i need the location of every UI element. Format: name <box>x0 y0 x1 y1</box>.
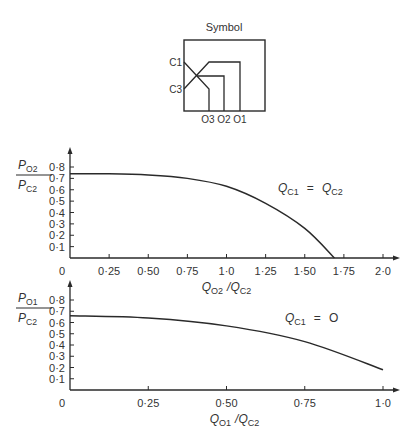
x-axis-label: QO1/QC2 <box>210 412 260 428</box>
curve-annotation: QC1=QC2 <box>278 181 343 197</box>
x-tick-label: 0·25 <box>98 265 120 277</box>
x-tick-label: 0·50 <box>215 397 237 409</box>
svg-text:PC2: PC2 <box>18 311 37 327</box>
x-tick-label: 2·0 <box>375 265 391 277</box>
y-tick-label: 0·8 <box>49 161 65 173</box>
y-tick-label: 0·4 <box>49 339 65 351</box>
x-axis-label: QO2/QC2 <box>202 280 252 296</box>
y-tick-label: 0·8 <box>49 294 65 306</box>
x-tick-label: 1·25 <box>255 265 277 277</box>
symbol-title: Symbol <box>206 21 243 33</box>
chart-o2-pressure-recovery: 0·10·20·30·40·50·60·70·800·250·500·751·0… <box>16 147 400 296</box>
svg-text:PC2: PC2 <box>18 178 37 194</box>
y-tick-label: 0·1 <box>49 373 65 385</box>
x-tick-label: 0·75 <box>176 265 198 277</box>
x-tick-label: 1·0 <box>375 397 391 409</box>
input-c3-label: C3 <box>169 84 182 95</box>
fluidic-symbol: Symbol C1 C3 O3 O2 O1 <box>169 21 265 125</box>
c1-channel <box>184 62 209 111</box>
curve-annotation: QC1=O <box>285 311 338 327</box>
x-axis-arrow-icon <box>393 388 400 393</box>
chart-o1-pressure-recovery: 0·10·20·30·40·50·60·70·800·250·500·751·0… <box>16 280 400 428</box>
output-o3-label: O3 <box>201 114 215 125</box>
x-tick-label: 1·50 <box>294 265 316 277</box>
output-o1-label: O1 <box>233 114 247 125</box>
c3-channel <box>184 62 240 111</box>
x-tick-label: 0·25 <box>137 397 159 409</box>
svg-text:PO2: PO2 <box>18 158 38 174</box>
y-tick-label: 0·4 <box>49 207 65 219</box>
x-tick-label: 0·50 <box>137 265 159 277</box>
y-tick-label: 0·5 <box>49 328 65 340</box>
output-o2-label: O2 <box>217 114 231 125</box>
y-tick-label: 0·3 <box>49 218 65 230</box>
x-axis-arrow-icon <box>393 256 400 261</box>
y-tick-label: 0·2 <box>49 229 65 241</box>
svg-text:PO1: PO1 <box>18 291 38 307</box>
x-tick-label: 0 <box>59 265 65 277</box>
y-tick-label: 0·7 <box>49 305 65 317</box>
y-tick-label: 0·6 <box>49 317 65 329</box>
input-c1-label: C1 <box>169 57 182 68</box>
y-axis-arrow-icon <box>68 147 73 154</box>
x-tick-label: 1·75 <box>333 265 355 277</box>
x-tick-label: 1·0 <box>219 265 235 277</box>
x-tick-label: 0 <box>59 397 65 409</box>
y-tick-label: 0·3 <box>49 350 65 362</box>
y-tick-label: 0·7 <box>49 172 65 184</box>
figure: Symbol C1 C3 O3 O2 O1 0·10·20·30·40·50·6… <box>0 0 416 444</box>
x-tick-label: 0·75 <box>294 397 316 409</box>
y-tick-label: 0·2 <box>49 362 65 374</box>
y-tick-label: 0·6 <box>49 184 65 196</box>
y-tick-label: 0·5 <box>49 195 65 207</box>
y-axis-arrow-icon <box>68 280 73 287</box>
y-tick-label: 0·1 <box>49 241 65 253</box>
